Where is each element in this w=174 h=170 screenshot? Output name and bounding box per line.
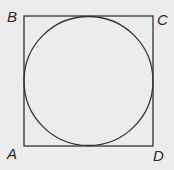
inscribed-circle-diagram: B C A D [0, 0, 174, 170]
vertex-label-c: C [157, 12, 168, 27]
vertex-label-d: D [153, 148, 164, 163]
vertex-label-b: B [7, 9, 17, 24]
inscribed-circle [24, 17, 153, 146]
diagram-canvas [0, 0, 174, 170]
vertex-label-a: A [7, 146, 17, 161]
